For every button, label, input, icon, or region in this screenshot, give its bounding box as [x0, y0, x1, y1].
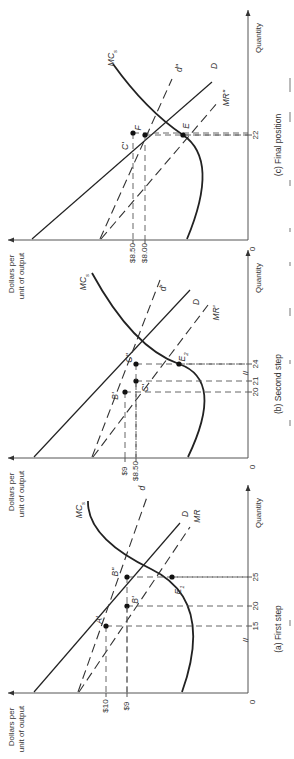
point-E	[180, 132, 185, 137]
y-axis-label-line1: Dollars per	[7, 472, 16, 511]
x-axis-label: Quantity	[254, 263, 263, 293]
y-axis-label-line1: Dollars per	[7, 707, 16, 746]
quantity-tick-label: 21	[251, 376, 260, 385]
point-label-Cp: C'	[120, 142, 130, 150]
quantity-tick-label: 24	[251, 359, 260, 368]
x-axis-label: Quantity	[254, 23, 263, 53]
economics-figure: Dollars perunit of outputQuantity0(a) Fi…	[0, 0, 294, 759]
caption-fragment	[289, 228, 291, 232]
quantity-tick-label: 25	[251, 572, 260, 581]
point-label-Cpp: C''	[124, 353, 134, 363]
price-tick-label: $9	[122, 701, 131, 710]
marginal-cost-curve-MCs	[113, 64, 203, 239]
curve-label-MCs: MCs	[74, 502, 85, 518]
caption-fragment	[289, 620, 291, 626]
curve-label-dpp: d''	[174, 64, 184, 72]
price-tick-label: $8.50	[128, 242, 137, 263]
curve-label-d: d	[137, 485, 147, 490]
price-tick-label: $8.50	[131, 460, 140, 481]
quantity-axis-arrow-icon	[246, 485, 251, 491]
price-axis-arrow-icon	[8, 238, 14, 243]
origin-label: 0	[248, 246, 257, 251]
marginal-cost-curve-MCs	[88, 501, 193, 692]
origin-label: 0	[248, 464, 257, 469]
y-axis-label-line2: unit of output	[17, 252, 26, 299]
panel-caption: (a) First step	[273, 605, 283, 653]
point-Bp	[122, 389, 127, 394]
price-tick-label: $10	[101, 699, 110, 713]
quantity-tick-label: 20	[251, 387, 260, 396]
curve-label-MRp: MR'	[211, 305, 221, 320]
curve-label-MCs: MCs	[78, 274, 89, 290]
quantity-tick-label: 22	[251, 130, 260, 139]
axis-break-mark: //	[241, 637, 250, 642]
caption-fragment	[289, 308, 291, 316]
caption-fragment	[289, 180, 291, 186]
quantity-tick-label: 15	[251, 621, 260, 630]
panel-a-first-step: Dollars perunit of outputQuantity0(a) Fi…	[7, 485, 283, 752]
origin-label: 0	[248, 699, 257, 704]
point-label-Bp: B'	[130, 596, 140, 604]
point-label-F: F	[133, 125, 143, 131]
y-axis-label-line2: unit of output	[17, 705, 26, 752]
point-label-Cp: C'	[140, 384, 150, 392]
marginal-cost-curve-MCs	[92, 273, 204, 457]
price-axis-arrow-icon	[8, 456, 14, 461]
quantity-axis-arrow-icon	[246, 10, 251, 16]
perceived-demand-curve-d	[92, 280, 160, 457]
point-label-Bpp: B''	[110, 567, 120, 576]
panel-b-second-step: Dollars perunit of outputQuantity0(b) Se…	[7, 250, 283, 517]
point-label-Bp: B'	[110, 392, 120, 400]
point-label-E: E	[181, 123, 191, 129]
caption-fragment	[289, 78, 291, 92]
curve-label-MRpp: MR''	[221, 89, 231, 106]
demand-curve-D	[32, 82, 212, 239]
perceived-demand-curve-d	[78, 497, 147, 692]
panel-c-final-position: Dollars perunit of outputQuantity0(c) Fi…	[7, 10, 283, 299]
caption-fragment	[289, 262, 291, 266]
y-axis-label-line1: Dollars per	[7, 254, 16, 293]
y-axis-label-line2: unit of output	[17, 470, 26, 517]
marginal-revenue-curve	[101, 102, 218, 239]
point-F	[142, 132, 147, 137]
price-axis-arrow-icon	[8, 691, 14, 696]
point-Bpp	[124, 574, 129, 579]
panel-caption: (b) Second step	[273, 354, 283, 414]
marginal-revenue-curve	[79, 527, 190, 692]
curve-label-D: D	[209, 63, 219, 69]
panel-caption: (c) Final position	[273, 114, 283, 177]
price-tick-label: $8.00	[140, 242, 149, 263]
price-tick-label: $9	[120, 466, 129, 475]
caption-fragment	[289, 112, 291, 122]
curve-label-dp: d'	[158, 284, 168, 291]
curve-label-D: D	[191, 299, 201, 305]
demand-curve-D	[34, 523, 180, 692]
cut-off-caption-fragments	[289, 78, 291, 626]
caption-fragment	[289, 360, 291, 364]
caption-fragment	[289, 420, 291, 426]
axis-break-mark: //	[241, 370, 250, 375]
curve-label-D: D	[180, 511, 190, 517]
quantity-tick-label: 20	[251, 601, 260, 610]
point-label-Ap: A'	[94, 616, 104, 625]
point-label-E2: E2	[177, 352, 188, 362]
point-E1	[169, 574, 174, 579]
curve-label-MR: MR	[192, 509, 202, 522]
curve-label-MCs: MCs	[106, 50, 117, 66]
perceived-demand-curve-d	[100, 79, 172, 239]
x-axis-label: Quantity	[254, 498, 263, 528]
